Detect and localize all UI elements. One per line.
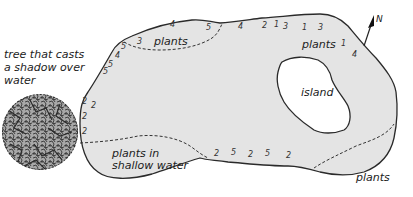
depth-number: 1 [302, 23, 307, 32]
pond-diagram: N tree that casts a shadow over water pl… [0, 0, 413, 197]
tree-label-line1: tree that casts [4, 48, 85, 61]
depth-number: 2 [262, 21, 267, 30]
depth-number: 3 [283, 22, 288, 31]
depth-number: 5 [231, 148, 236, 157]
depth-number: 2 [82, 97, 87, 106]
depth-number: 5 [108, 60, 113, 69]
plants-bottom-right-label: plants [355, 171, 390, 184]
depth-number: 2 [248, 150, 253, 159]
depth-number: 2 [82, 112, 87, 121]
depth-number: 3 [137, 37, 142, 46]
depth-number: 2 [91, 101, 96, 110]
island-label: island [301, 86, 335, 99]
depth-number: 5 [103, 67, 108, 76]
depth-number: 1 [341, 39, 346, 48]
plants-top-label: plants [153, 35, 188, 48]
tree-icon [2, 94, 78, 170]
depth-number: 5 [265, 149, 270, 158]
depth-number: 4 [170, 20, 175, 29]
depth-number: 2 [214, 149, 219, 158]
depth-number: 4 [115, 51, 120, 60]
tree-label: tree that casts a shadow over water [4, 48, 88, 87]
north-arrow-icon [364, 15, 374, 46]
plants-shallow-line2: shallow water [112, 159, 190, 172]
north-label: N [376, 14, 383, 24]
plants-right-label: plants [301, 38, 336, 51]
depth-number: 2 [82, 127, 87, 136]
depth-number: 5 [206, 23, 211, 32]
tree-label-line2: a shadow over [4, 61, 86, 74]
depth-number: 4 [352, 50, 357, 59]
depth-number: 4 [238, 22, 243, 31]
tree-label-line3: water [4, 74, 37, 87]
depth-number: 5 [121, 42, 126, 51]
depth-number: 1 [274, 20, 279, 29]
depth-number: 2 [286, 151, 291, 160]
depth-number: 3 [318, 23, 323, 32]
